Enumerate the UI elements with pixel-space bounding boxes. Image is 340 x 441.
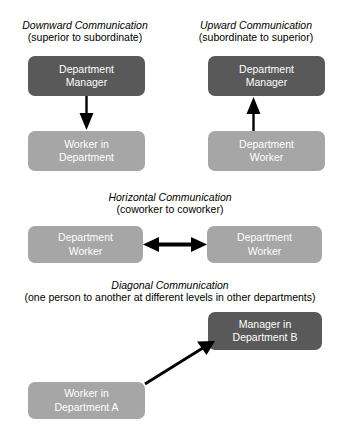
section-subtitle-downward: (superior to subordinate) (3, 31, 167, 43)
node-label: Department Manager (55, 63, 118, 90)
node-diagonal-manager-b: Manager in Department B (208, 312, 322, 350)
section-heading-diagonal: Diagonal Communication (one person to an… (0, 279, 340, 304)
section-title-horizontal: Horizontal Communication (45, 191, 295, 203)
section-heading-horizontal: Horizontal Communication (coworker to co… (45, 191, 295, 216)
node-horizontal-left-worker: Department Worker (28, 226, 143, 263)
node-upward-manager: Department Manager (208, 56, 325, 96)
section-subtitle-diagonal: (one person to another at different leve… (0, 291, 340, 303)
node-label: Department Worker (54, 231, 117, 258)
node-label: Worker in Department (55, 138, 118, 165)
node-downward-manager: Department Manager (28, 56, 145, 96)
double-headed-horizontal-arrow-icon (143, 237, 207, 252)
node-downward-worker: Worker in Department (28, 131, 145, 171)
node-horizontal-right-worker: Department Worker (207, 226, 322, 263)
diagonal-up-right-arrow-icon (145, 341, 215, 384)
section-title-upward: Upward Communication (174, 19, 338, 31)
section-heading-downward: Downward Communication (superior to subo… (3, 19, 167, 44)
down-arrow-icon (80, 96, 94, 130)
communication-directions-diagram: Downward Communication (superior to subo… (0, 0, 340, 441)
section-heading-upward: Upward Communication (subordinate to sup… (174, 19, 338, 44)
section-subtitle-horizontal: (coworker to coworker) (45, 203, 295, 215)
node-upward-worker: Department Worker (208, 131, 325, 171)
node-label: Manager in Department B (229, 318, 302, 345)
node-label: Department Worker (235, 138, 298, 165)
node-label: Department Manager (235, 63, 298, 90)
up-arrow-icon (247, 97, 261, 131)
section-title-diagonal: Diagonal Communication (0, 279, 340, 291)
node-label: Worker in Department A (50, 387, 122, 414)
node-diagonal-worker-a: Worker in Department A (28, 382, 145, 419)
section-subtitle-upward: (subordinate to superior) (174, 31, 338, 43)
node-label: Department Worker (233, 231, 296, 258)
section-title-downward: Downward Communication (3, 19, 167, 31)
